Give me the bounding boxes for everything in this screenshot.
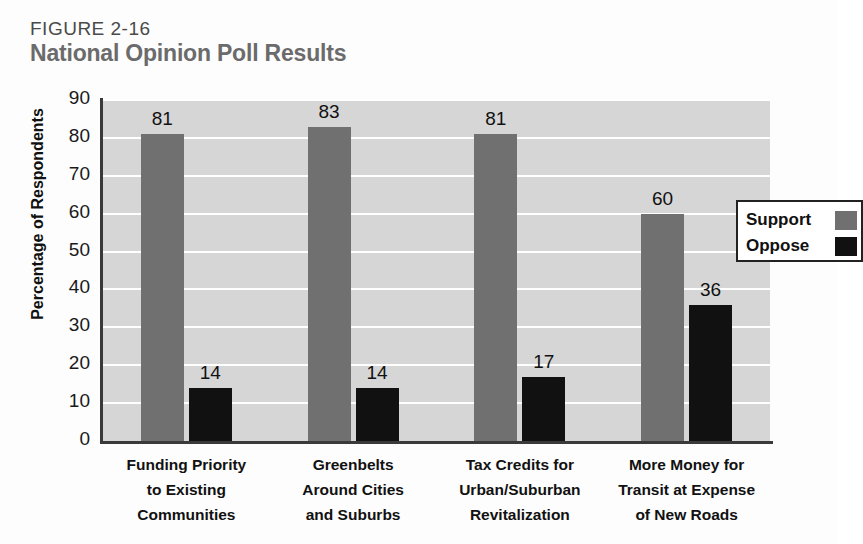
bar-support-1 — [308, 127, 351, 441]
y-tick-70: 70 — [30, 163, 90, 185]
x-category-line: Tax Credits for — [423, 452, 618, 477]
bar-value-support-3: 60 — [627, 188, 698, 210]
x-category-line: Communities — [89, 502, 284, 527]
x-axis-line — [100, 441, 773, 444]
x-category-line: and Suburbs — [256, 502, 451, 527]
x-category-line: Revitalization — [423, 502, 618, 527]
legend-label-oppose: Oppose — [746, 236, 809, 256]
figure-number: FIGURE 2-16 — [30, 18, 151, 40]
gridline — [103, 175, 770, 177]
x-category-label-0: Funding Priorityto ExistingCommunities — [89, 452, 284, 527]
y-tick-10: 10 — [30, 390, 90, 412]
bar-support-2 — [474, 134, 517, 441]
bar-oppose-2 — [522, 377, 565, 441]
figure-title: National Opinion Poll Results — [30, 40, 346, 67]
bar-value-oppose-0: 14 — [175, 362, 246, 384]
x-category-line: More Money for — [589, 452, 784, 477]
gridline — [103, 137, 770, 139]
x-category-line: Funding Priority — [89, 452, 284, 477]
legend-item-support: Support — [746, 208, 857, 232]
bar-value-oppose-2: 17 — [508, 351, 579, 373]
bar-oppose-3 — [689, 305, 732, 441]
bar-oppose-0 — [189, 388, 232, 441]
plot-area: 8114831481176036 Support Oppose — [103, 100, 770, 441]
bar-support-3 — [641, 214, 684, 441]
bar-value-oppose-3: 36 — [675, 279, 746, 301]
bar-value-support-1: 83 — [294, 101, 365, 123]
y-tick-0: 0 — [30, 428, 90, 450]
y-tick-50: 50 — [30, 239, 90, 261]
legend-label-support: Support — [746, 210, 811, 230]
bar-value-support-2: 81 — [460, 108, 531, 130]
y-tick-60: 60 — [30, 201, 90, 223]
y-axis-line — [100, 98, 103, 443]
bar-value-oppose-1: 14 — [342, 362, 413, 384]
legend-swatch-oppose — [835, 237, 857, 256]
x-category-line: Transit at Expense — [589, 477, 784, 502]
x-category-line: Greenbelts — [256, 452, 451, 477]
bar-oppose-1 — [356, 388, 399, 441]
x-category-line: to Existing — [89, 477, 284, 502]
x-category-label-1: GreenbeltsAround Citiesand Suburbs — [256, 452, 451, 527]
y-tick-30: 30 — [30, 314, 90, 336]
chart-legend: Support Oppose — [736, 200, 863, 262]
y-tick-90: 90 — [30, 87, 90, 109]
x-category-label-3: More Money forTransit at Expenseof New R… — [589, 452, 784, 527]
bar-value-support-0: 81 — [127, 108, 198, 130]
x-category-label-2: Tax Credits forUrban/SuburbanRevitalizat… — [423, 452, 618, 527]
legend-item-oppose: Oppose — [746, 234, 857, 258]
gridline — [103, 99, 770, 101]
legend-swatch-support — [835, 211, 857, 230]
x-category-line: Urban/Suburban — [423, 477, 618, 502]
x-category-line: of New Roads — [589, 502, 784, 527]
y-tick-80: 80 — [30, 125, 90, 147]
y-tick-20: 20 — [30, 352, 90, 374]
y-tick-40: 40 — [30, 276, 90, 298]
bar-support-0 — [141, 134, 184, 441]
x-category-line: Around Cities — [256, 477, 451, 502]
